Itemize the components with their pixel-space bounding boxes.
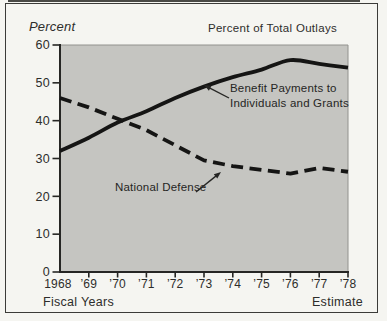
y-tick-label: 20 [35,190,50,204]
x-axis-estimate-note: Estimate [312,295,363,309]
chart-title: Percent of Total Outlays [208,22,337,34]
annotation-national-defense: National Defense [115,180,206,195]
x-tick-label: ’78 [340,277,357,291]
annotation-benefit-line1: Benefit Payments to [230,81,349,96]
x-tick-label: ’77 [311,277,328,291]
y-tick-label: 60 [35,38,50,52]
annotation-benefit-payments: Benefit Payments to Individuals and Gran… [230,81,349,111]
annotation-defense-line1: National Defense [115,180,206,195]
x-tick-label: 1968 [44,277,72,291]
x-axis-title: Fiscal Years [43,295,114,309]
x-tick-label: ’71 [138,277,155,291]
x-tick-label: ’75 [253,277,270,291]
y-tick-label: 40 [35,114,50,128]
annotation-benefit-line2: Individuals and Grants [230,96,349,111]
x-tick-label: ’69 [80,277,97,291]
y-tick-label: 30 [35,152,50,166]
x-tick-label: ’76 [282,277,299,291]
x-tick-label: ’73 [196,277,213,291]
y-tick-label: 10 [35,227,50,241]
x-tick-label: ’74 [224,277,241,291]
line-chart: 01020304050601968’69’70’71’72’73’74’75’7… [0,0,387,321]
x-tick-label: ’72 [167,277,184,291]
y-axis-title: Percent [29,19,75,34]
y-tick-label: 50 [35,76,50,90]
x-tick-label: ’70 [109,277,126,291]
